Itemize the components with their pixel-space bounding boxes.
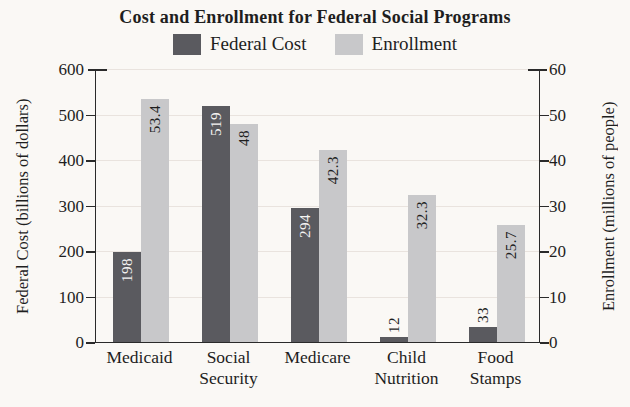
value-label-enrollment-child-nutrition: 32.3	[414, 201, 429, 229]
bar-federal-cost-food-stamps: 33	[469, 327, 497, 342]
bar-federal-cost-social-security: 519	[202, 106, 230, 342]
bar-enrollment-medicaid: 53.4	[141, 99, 169, 342]
legend-label-enrollment: Enrollment	[372, 33, 457, 55]
value-label-federal-cost-medicare: 294	[297, 214, 312, 238]
bar-enrollment-medicare: 42.3	[319, 150, 347, 342]
bar-federal-cost-medicaid: 198	[113, 252, 141, 342]
left-tick-mark-0	[86, 342, 95, 344]
plot-area: 19853.45194829442.31232.33325.7	[95, 70, 540, 343]
value-label-federal-cost-medicaid: 198	[119, 258, 134, 282]
right-tick-mark-60	[528, 69, 540, 71]
bar-enrollment-food-stamps: 25.7	[497, 225, 525, 342]
left-tick-mark-600	[95, 69, 107, 71]
right-tick-mark-50	[540, 115, 549, 117]
right-tick-label-0: 0	[549, 333, 609, 353]
left-tick-mark-500	[86, 115, 95, 117]
value-label-federal-cost-food-stamps: 33	[475, 307, 490, 323]
value-label-enrollment-food-stamps: 25.7	[503, 231, 518, 259]
gridline-600	[96, 69, 539, 70]
left-tick-label-100: 100	[0, 288, 84, 308]
right-tick-label-60: 60	[549, 60, 609, 80]
federal-cost-swatch	[173, 34, 201, 55]
left-tick-label-0: 0	[0, 333, 84, 353]
right-tick-label-30: 30	[549, 197, 609, 217]
chart-figure: Cost and Enrollment for Federal Social P…	[0, 0, 630, 407]
value-label-enrollment-social-security: 48	[236, 130, 251, 146]
left-tick-label-600: 600	[0, 60, 84, 80]
right-tick-mark-40	[540, 160, 549, 162]
right-tick-mark-30	[540, 206, 549, 208]
left-tick-label-200: 200	[0, 242, 84, 262]
left-tick-label-400: 400	[0, 151, 84, 171]
bar-federal-cost-child-nutrition: 12	[380, 337, 408, 342]
bar-federal-cost-medicare: 294	[291, 208, 319, 342]
right-tick-stub-60	[540, 69, 547, 71]
legend: Federal Cost Enrollment	[0, 33, 630, 55]
right-tick-label-10: 10	[549, 288, 609, 308]
right-tick-mark-10	[540, 297, 549, 299]
bar-enrollment-child-nutrition: 32.3	[408, 195, 436, 342]
enrollment-swatch	[335, 34, 363, 55]
legend-item-federal-cost: Federal Cost	[173, 33, 307, 55]
left-tick-stub-600	[88, 69, 95, 71]
left-tick-label-500: 500	[0, 106, 84, 126]
legend-item-enrollment: Enrollment	[335, 33, 457, 55]
left-tick-label-300: 300	[0, 197, 84, 217]
right-tick-mark-20	[540, 251, 549, 253]
left-tick-mark-300	[86, 206, 95, 208]
right-tick-label-40: 40	[549, 151, 609, 171]
left-tick-mark-400	[86, 160, 95, 162]
left-tick-mark-100	[86, 297, 95, 299]
right-tick-label-50: 50	[549, 106, 609, 126]
value-label-enrollment-medicare: 42.3	[325, 156, 340, 184]
value-label-federal-cost-child-nutrition: 12	[386, 317, 401, 333]
bar-enrollment-social-security: 48	[230, 124, 258, 342]
legend-label-federal-cost: Federal Cost	[210, 33, 307, 55]
left-tick-mark-200	[86, 251, 95, 253]
chart-title: Cost and Enrollment for Federal Social P…	[0, 7, 630, 28]
category-label-food-stamps: Food Stamps	[440, 347, 552, 389]
right-tick-label-20: 20	[549, 242, 609, 262]
right-tick-mark-0	[540, 342, 549, 344]
value-label-federal-cost-social-security: 519	[208, 112, 223, 136]
value-label-enrollment-medicaid: 53.4	[147, 105, 162, 133]
